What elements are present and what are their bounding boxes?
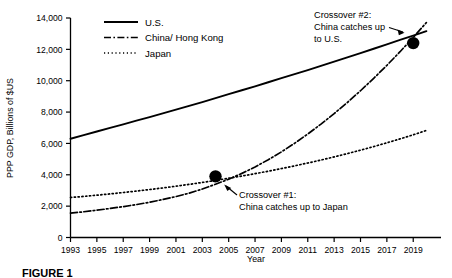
x-tick-label: 2017: [377, 245, 396, 255]
x-axis-title: Year: [247, 254, 265, 264]
annotation-crossover-2: Crossover #2: China catches up to U.S.: [314, 10, 405, 44]
x-tick-label: 1993: [61, 245, 80, 255]
series-line-u-s: [71, 31, 427, 139]
x-tick-label: 2015: [351, 245, 370, 255]
y-tick-label: 12,000: [36, 45, 63, 55]
x-tick-label: 2007: [245, 245, 264, 255]
legend-label-1: U.S.: [145, 17, 164, 28]
annotation-crossover-2-line-1: Crossover #2:: [314, 10, 371, 20]
annotation-crossover-2-line-3: to U.S.: [314, 34, 342, 44]
x-tick-label: 1999: [140, 245, 159, 255]
x-tick-label: 2003: [193, 245, 212, 255]
x-tick-label: 1997: [114, 245, 133, 255]
y-tick-label: 8,000: [41, 107, 63, 117]
series-line-china-hong-kong: [71, 23, 427, 214]
chart-legend: U.S.China/ Hong KongJapan: [104, 17, 223, 59]
legend-label-3: Japan: [145, 48, 171, 59]
crossover-2-marker: [407, 37, 419, 49]
annotation-crossover-1-line-2: China catches up to Japan: [239, 202, 348, 212]
x-tick-label: 2013: [325, 245, 344, 255]
x-tick-label: 2011: [299, 245, 318, 255]
y-axis-ticks: [66, 18, 71, 238]
crossover-1-marker: [209, 170, 221, 182]
x-tick-label: 2001: [166, 245, 185, 255]
y-tick-label: 4,000: [41, 170, 63, 180]
y-tick-label: 2,000: [41, 201, 63, 211]
figure-caption: FIGURE 1: [22, 267, 73, 278]
y-tick-label: 10,000: [36, 76, 63, 86]
x-tick-label: 2005: [219, 245, 238, 255]
y-axis-tick-labels: 02,0004,0006,0008,00010,00012,00014,000: [36, 13, 63, 243]
y-tick-label: 14,000: [36, 13, 63, 23]
annotation-crossover-2-line-2: China catches up: [314, 22, 385, 32]
annotation-crossover-1: Crossover #1: China catches up to Japan: [224, 185, 348, 213]
annotation-crossover-1-line-1: Crossover #1:: [239, 190, 296, 200]
ppp-gdp-line-chart: 02,0004,0006,0008,00010,00012,00014,000 …: [0, 0, 452, 278]
y-tick-label: 0: [58, 233, 63, 243]
y-tick-label: 6,000: [41, 139, 63, 149]
x-tick-label: 1995: [87, 245, 106, 255]
y-axis-title: PPP GDP, Billions of $US: [5, 78, 15, 178]
data-series-group: [71, 23, 427, 214]
legend-label-2: China/ Hong Kong: [145, 32, 223, 43]
figure-panel: 02,0004,0006,0008,00010,00012,00014,000 …: [0, 0, 452, 278]
annotation-crossover-2-arrowhead: [398, 29, 405, 35]
x-axis-tick-labels: 1993199519971999200120032005200720092011…: [61, 245, 423, 255]
series-line-japan: [71, 130, 427, 197]
x-tick-label: 2009: [272, 245, 291, 255]
x-tick-label: 2019: [404, 245, 423, 255]
x-axis-ticks: [71, 238, 414, 243]
